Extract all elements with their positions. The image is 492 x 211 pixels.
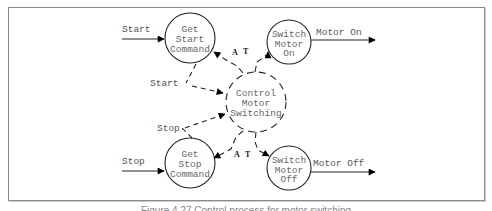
flow-motor-off-output: Motor Off: [311, 158, 375, 172]
svg-text:Command: Command: [170, 44, 210, 55]
svg-text:T: T: [245, 150, 251, 159]
svg-text:Stop: Stop: [157, 123, 180, 134]
svg-text:On: On: [283, 48, 294, 59]
svg-text:T: T: [243, 47, 249, 56]
svg-text:A: A: [232, 48, 238, 57]
svg-text:Switching: Switching: [230, 108, 281, 119]
svg-text:Motor Off: Motor Off: [313, 158, 365, 169]
flow-start-input: Start: [122, 24, 164, 39]
diagram-canvas: Get Start Command Switch Motor On Contro…: [0, 0, 492, 211]
svg-text:Stop: Stop: [122, 156, 145, 167]
svg-text:Motor On: Motor On: [316, 27, 362, 38]
control-flow-top: A T: [214, 47, 268, 73]
svg-text:Start: Start: [122, 24, 151, 35]
control-flow-bottom: A T: [214, 131, 269, 159]
svg-text:Start: Start: [150, 78, 179, 89]
flow-stop-input: Stop: [122, 156, 164, 171]
svg-text:A: A: [234, 150, 240, 159]
process-switch-motor-off: Switch Motor Off: [267, 146, 311, 190]
process-control-motor-switching: Control Motor Switching: [226, 72, 286, 132]
event-flow-start: Start: [150, 64, 223, 93]
svg-text:Off: Off: [280, 174, 297, 185]
process-get-start-command: Get Start Command: [165, 13, 215, 63]
process-switch-motor-on: Switch Motor On: [267, 20, 311, 64]
figure-caption: Figure 4.27 Control process for motor sw…: [0, 205, 492, 211]
process-get-stop-command: Get Stop Command: [165, 138, 215, 188]
event-flow-stop: Stop: [157, 114, 225, 138]
flow-motor-on-output: Motor On: [311, 27, 375, 40]
svg-text:Command: Command: [170, 169, 210, 180]
